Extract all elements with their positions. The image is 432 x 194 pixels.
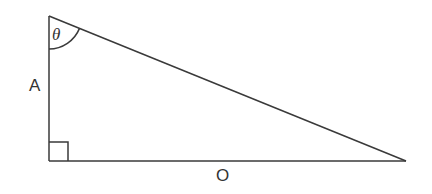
triangle (49, 16, 406, 161)
hypotenuse (49, 16, 406, 161)
angle-label-theta: θ (52, 25, 60, 44)
right-triangle-diagram: θ A O (0, 0, 432, 194)
side-label-o: O (216, 166, 229, 185)
right-angle-marker (49, 142, 68, 161)
side-label-a: A (29, 76, 41, 95)
